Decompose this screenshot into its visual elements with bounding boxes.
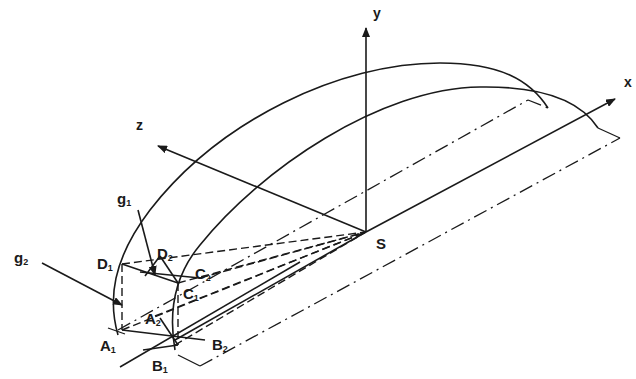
x-axis-label: x [624,75,632,89]
point-label-c2: C2 [195,266,211,283]
diagram-canvas: y x z S g1 g2 D1 D2 C2 C1 A2 A1 B2 B1 [0,0,636,379]
point-label-b2: B2 [212,337,228,354]
point-label-b1: B1 [152,358,168,375]
point-label-c1: C1 [183,286,199,303]
point-label-a1: A1 [100,338,116,355]
point-label-d2: D2 [157,246,173,263]
z-axis-label: z [136,118,143,132]
inner-arc [172,87,598,350]
origin-label-s: S [376,236,386,251]
y-axis-label: y [373,6,381,20]
diagram-drawing [0,0,636,379]
outer-arc [113,63,548,335]
vector-label-g2: g2 [14,250,28,267]
point-label-d1: D1 [97,256,113,273]
z-axis [158,146,366,232]
x-axis [366,99,615,232]
g1-vector [138,210,155,275]
vector-label-g1: g1 [117,191,131,208]
point-label-a2: A2 [145,311,161,328]
